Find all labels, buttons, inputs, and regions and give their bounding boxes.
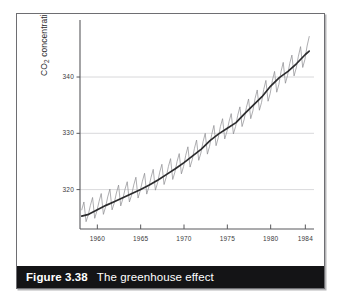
figure-caption-number: Figure 3.38: [26, 271, 88, 283]
x-tick-label: 1975: [214, 235, 240, 242]
x-tick-label: 1965: [128, 235, 154, 242]
y-axis-title-subscript: 2: [43, 59, 50, 63]
x-tick-label: 1980: [258, 235, 284, 242]
x-tick-label: 1970: [171, 235, 197, 242]
x-tick-label: 1984: [292, 235, 318, 242]
plot-area: CO2 concentration ppm 320330340 19601965…: [17, 14, 324, 253]
y-tick-label: 340: [52, 73, 74, 80]
axis-ticks: [77, 77, 306, 229]
y-tick-label: 330: [52, 129, 74, 136]
y-axis-title-main: CO: [39, 63, 49, 76]
figure-caption-text: The greenhouse effect: [97, 271, 214, 283]
figure-caption-bar: Figure 3.38 The greenhouse effect: [17, 266, 324, 288]
monthly-series-line: [82, 37, 310, 222]
gridlines: [80, 77, 314, 190]
y-axis-title-rest: concentration ppm: [39, 14, 49, 59]
figure-container: CO2 concentration ppm 320330340 19601965…: [16, 13, 325, 289]
y-tick-label: 320: [52, 186, 74, 193]
y-axis-title: CO2 concentration ppm: [39, 14, 50, 76]
x-tick-label: 1960: [84, 235, 110, 242]
